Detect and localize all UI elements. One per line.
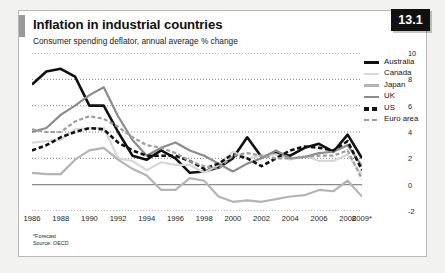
chart-svg [32,53,362,211]
legend-swatch-icon [364,84,379,87]
legend-item: Canada [364,69,430,81]
chart-subtitle: Consumer spending deflator, annual avera… [33,36,238,46]
y-tick-label: 0 [408,180,412,189]
x-axis-ticks: 1986198819901992199419961998200020022004… [32,214,396,228]
legend-label: UK [384,91,395,100]
y-tick-label: 4 [408,128,412,137]
legend-swatch-icon [364,119,379,121]
x-tick-label: 1992 [110,214,127,223]
x-tick-label: 2009* [352,214,372,223]
x-tick-label: 1998 [196,214,213,223]
legend-swatch-icon [364,61,379,64]
page-title: Inflation in industrial countries [33,17,222,32]
legend-item: Australia [364,57,430,69]
x-tick-label: 2006 [311,214,328,223]
x-tick-label: 1996 [167,214,184,223]
legend-swatch-icon [364,107,379,110]
legend-swatch-icon [364,96,379,99]
legend-item: US [364,103,430,115]
legend-item: Japan [364,80,430,92]
x-tick-label: 1988 [52,214,69,223]
footnote-source: Source: OECD [33,240,69,247]
title-accent-bar [19,15,25,37]
legend-item: UK [364,92,430,104]
legend-label: Euro area [384,114,418,123]
y-tick-label: 2 [408,154,412,163]
chart-card: Inflation in industrial countries Consum… [18,10,427,257]
legend-swatch-icon [364,73,379,76]
x-tick-label: 2000 [224,214,241,223]
legend-label: US [384,103,395,112]
x-tick-label: 1994 [138,214,155,223]
plot-area [32,53,362,211]
footnote-forecast: *Forecast [33,233,69,240]
x-tick-label: 2002 [253,214,270,223]
legend-label: Canada [384,68,411,77]
figure-number-badge: 13.1 [391,9,430,31]
chart-legend: AustraliaCanadaJapanUKUSEuro area [364,57,430,127]
legend-label: Australia [384,57,414,66]
y-tick-label: -2 [408,207,415,216]
chart-figure: Inflation in industrial countries Consum… [0,0,445,273]
x-tick-label: 1990 [81,214,98,223]
x-tick-label: 1986 [24,214,41,223]
x-tick-label: 2004 [282,214,299,223]
legend-item: Euro area [364,115,430,127]
legend-label: Japan [384,80,405,89]
chart-footnotes: *Forecast Source: OECD [33,233,69,247]
